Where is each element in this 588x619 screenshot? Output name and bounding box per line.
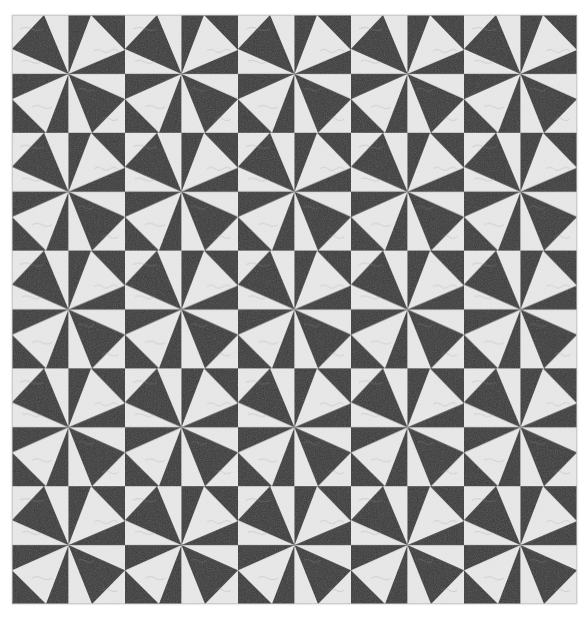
quilt-pattern bbox=[12, 15, 577, 604]
quilt-surface bbox=[12, 15, 577, 604]
image-subject: Black and white pinwheel signature quilt bbox=[0, 0, 1, 1]
quilt-photo: Black and white pinwheel signature quilt bbox=[0, 0, 588, 619]
pinwheel-quilt bbox=[12, 15, 577, 604]
